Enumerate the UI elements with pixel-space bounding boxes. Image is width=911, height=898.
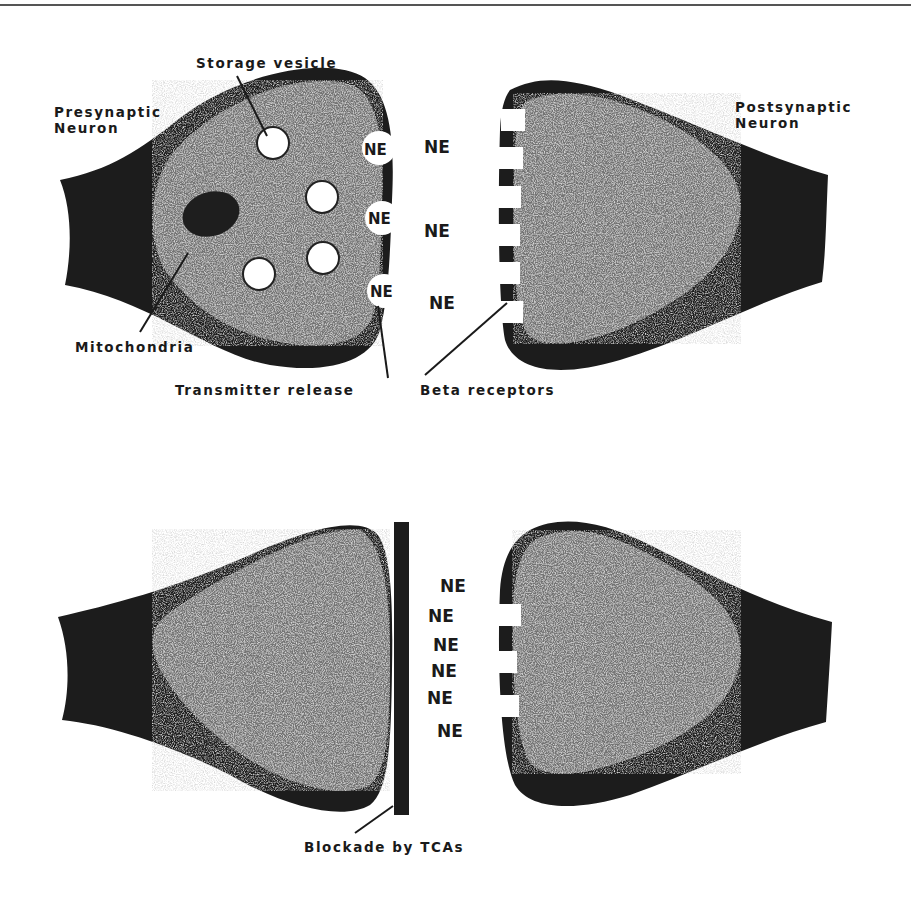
beta-receptor	[497, 604, 521, 626]
bottom-panel: NE NE NE NE NE NE Blockade by TCAs	[58, 522, 832, 855]
storage-vesicle	[306, 181, 338, 213]
beta-receptor	[497, 186, 521, 208]
beta-receptor	[499, 147, 523, 169]
beta-receptor	[501, 109, 525, 131]
beta-receptor	[496, 262, 520, 284]
beta-receptor	[497, 695, 519, 717]
blockade-label: Blockade by TCAs	[304, 839, 464, 855]
beta-receptor	[496, 224, 520, 246]
blockade-leader	[355, 806, 393, 833]
cleft-ne-label: NE	[424, 137, 450, 157]
cleft-ne-label: NE	[427, 688, 453, 708]
vesicle-ne-label: NE	[368, 210, 391, 228]
postsynaptic-neuron-bottom	[496, 522, 832, 807]
transmitter-release-label: Transmitter release	[175, 382, 355, 398]
cleft-ne-label: NE	[431, 661, 457, 681]
cleft-ne-label: NE	[433, 635, 459, 655]
storage-vesicle	[243, 258, 275, 290]
beta-receptor	[499, 301, 523, 323]
cleft-ne-label: NE	[424, 221, 450, 241]
postsynaptic-label-line1: Postsynaptic	[735, 99, 852, 115]
storage-vesicle	[307, 242, 339, 274]
postsynaptic-label-line2: Neuron	[735, 115, 800, 131]
cleft-ne-label: NE	[440, 576, 466, 596]
presynaptic-label-line2: Neuron	[54, 120, 119, 136]
presynaptic-neuron-bottom	[58, 525, 392, 811]
vesicle-ne-label: NE	[370, 283, 393, 301]
beta-receptors-label: Beta receptors	[420, 382, 555, 398]
top-panel: NE NE NE NE NE NE Presynaptic Neuron Pos…	[54, 55, 852, 398]
vesicle-ne-label: NE	[364, 141, 387, 159]
cleft-ne-label: NE	[428, 606, 454, 626]
synapse-diagram: NE NE NE NE NE NE Presynaptic Neuron Pos…	[0, 0, 911, 898]
cleft-ne-label: NE	[429, 293, 455, 313]
presynaptic-label-line1: Presynaptic	[54, 104, 162, 120]
tca-blockade-bar	[394, 522, 409, 815]
beta-receptors-leader	[425, 303, 507, 375]
mitochondria-label: Mitochondria	[75, 339, 195, 355]
cleft-ne-label: NE	[437, 721, 463, 741]
beta-receptor	[496, 651, 517, 673]
storage-vesicle-label: Storage vesicle	[196, 55, 337, 71]
storage-vesicle	[257, 127, 289, 159]
